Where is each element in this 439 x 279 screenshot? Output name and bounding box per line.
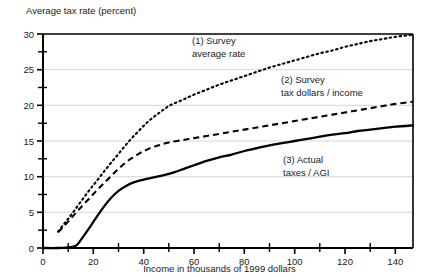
- annotation-survey-tax-dollars-income: (2) Survey tax dollars / income: [281, 74, 363, 98]
- ytick-label-5: 5: [29, 207, 34, 218]
- ytick-label-25: 25: [23, 64, 34, 75]
- annotation-2-line-1: (2) Survey: [281, 74, 325, 85]
- series-survey-average-rate: [58, 35, 413, 232]
- annotation-1-line-2: average rate: [192, 48, 245, 59]
- ytick-label-30: 30: [23, 29, 34, 40]
- annotation-survey-average-rate: (1) Survey average rate: [192, 35, 245, 59]
- y-axis-tick-labels: 30 25 20 15 10 5 0: [23, 29, 34, 254]
- annotation-3-line-1: (3) Actual: [283, 154, 323, 165]
- ytick-label-0: 0: [29, 243, 34, 254]
- series-survey-tax-dollars-income: [58, 102, 413, 233]
- ytick-label-10: 10: [23, 171, 34, 182]
- chart-figure: Average tax rate (percent): [0, 0, 439, 279]
- ytick-label-15: 15: [23, 136, 34, 147]
- x-axis-label: Income in thousands of 1999 dollars: [0, 263, 439, 275]
- chart-plot-area: 30 25 20 15 10 5 0 0: [0, 0, 439, 279]
- ytick-label-20: 20: [23, 100, 34, 111]
- annotation-actual-taxes-agi: (3) Actual taxes / AGI: [283, 154, 329, 178]
- annotation-2-line-2: tax dollars / income: [281, 87, 363, 98]
- annotation-1-line-1: (1) Survey: [192, 35, 236, 46]
- annotation-3-line-2: taxes / AGI: [283, 167, 329, 178]
- series-actual-taxes-agi: [43, 125, 413, 248]
